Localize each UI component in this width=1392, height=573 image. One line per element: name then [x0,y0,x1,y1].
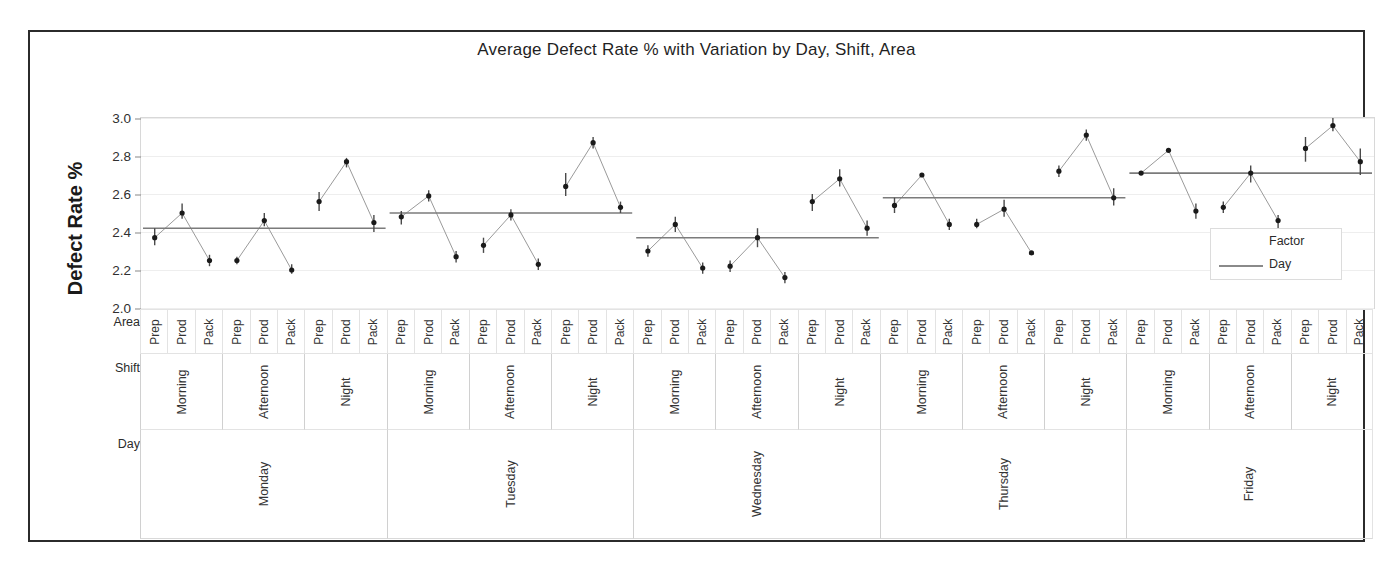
data-point [673,222,678,227]
axis-cell-day-label: Thursday [997,458,1011,510]
axis-cell-area: Prod [250,309,277,354]
y-axis-tick-label: 2.4 [112,225,131,240]
axis-cell-shift-label: Night [1325,377,1339,406]
data-point [728,264,733,269]
data-point [399,214,404,219]
axis-cell-shift: Night [1044,354,1126,430]
axis-cell-area-label: Pack [366,318,380,345]
data-point [837,176,842,181]
series-connector [155,213,210,261]
axis-cell-day: Thursday [880,430,1127,539]
axis-cell-area-label: Prep [312,319,326,344]
axis-cell-area-label: Prod [257,319,271,344]
axis-cell-area-label: Prod [421,319,435,344]
category-axis: PrepProdPackPrepProdPackPrepProdPackPrep… [140,309,1375,539]
axis-cell-area: Prep [140,309,167,354]
data-point [1056,169,1061,174]
data-point [892,203,897,208]
data-point [289,267,294,272]
axis-cell-day-label: Monday [257,462,271,506]
axis-cell-area: Pack [195,309,222,354]
series-connector [1059,135,1114,198]
axis-cell-area: Prod [414,309,441,354]
axis-level-name-day: Day [74,437,140,451]
y-axis-tick-label: 2.6 [112,187,131,202]
axis-cell-area: Prep [1291,309,1318,354]
axis-cell-area: Pack [852,309,879,354]
axis-cell-area-label: Prep [969,319,983,344]
axis-cell-day-label: Friday [1243,467,1257,502]
data-point [1002,207,1007,212]
axis-level-name-area: Area [74,315,140,329]
data-point [1111,195,1116,200]
axis-cell-area: Prod [332,309,359,354]
axis-cell-shift: Night [304,354,386,430]
data-point [234,258,239,263]
axis-cell-area-label: Prod [339,319,353,344]
data-point [1193,209,1198,214]
axis-cell-area: Pack [1263,309,1290,354]
data-point [1330,123,1335,128]
axis-cell-area-label: Pack [449,318,463,345]
data-point [700,266,705,271]
data-point [344,159,349,164]
axis-cell-day: Monday [140,430,387,539]
data-point [152,235,157,240]
axis-cell-shift-label: Afternoon [257,364,271,418]
series-connector [566,143,621,208]
axis-cell-area: Prod [578,309,605,354]
axis-cell-area: Prod [1236,309,1263,354]
data-point [1248,171,1253,176]
axis-cell-area-label: Prod [1161,319,1175,344]
data-point [1276,218,1281,223]
data-point [591,140,596,145]
y-axis-title-text: Defect Rate % [64,129,87,329]
axis-cell-shift: Afternoon [962,354,1044,430]
axis-cell-area: Prep [962,309,989,354]
data-point [1166,148,1171,153]
y-axis-tick-label: 2.2 [112,263,131,278]
axis-cell-area: Prod [496,309,523,354]
axis-cell-area: Prep [222,309,249,354]
axis-cell-area: Pack [935,309,962,354]
data-point [317,199,322,204]
axis-cell-area: Prep [1044,309,1071,354]
chart-frame: Average Defect Rate % with Variation by … [28,30,1365,542]
axis-cell-area-label: Prep [805,319,819,344]
axis-cell-area-label: Pack [1352,318,1366,345]
axis-cell-area: Prod [743,309,770,354]
axis-cell-area-label: Prep [229,319,243,344]
axis-cell-shift-label: Night [586,377,600,406]
axis-cell-area-label: Prep [147,319,161,344]
axis-cell-area: Pack [441,309,468,354]
axis-cell-area-label: Pack [860,318,874,345]
y-axis-tick-label: 2.8 [112,149,131,164]
axis-cell-area: Prep [715,309,742,354]
axis-cell-area-label: Prod [1243,319,1257,344]
axis-cell-area: Pack [1346,309,1373,354]
data-point [1303,146,1308,151]
axis-cell-shift-label: Morning [668,369,682,414]
series-connector [401,196,456,257]
axis-level-names: AreaShiftDay [64,309,140,539]
series-connector [319,162,374,223]
axis-cell-area-label: Prep [1216,319,1230,344]
data-point [262,218,267,223]
axis-cell-area-label: Prep [476,319,490,344]
axis-row-day: MondayTuesdayWednesdayThursdayFriday [140,430,1375,539]
data-point [1358,159,1363,164]
axis-cell-shift: Morning [633,354,715,430]
axis-cell-area-label: Pack [1106,318,1120,345]
axis-cell-area-label: Prod [1325,319,1339,344]
axis-cell-area-label: Prod [503,319,517,344]
axis-cell-area-label: Pack [1271,318,1285,345]
y-axis-title: Defect Rate % [60,127,90,327]
axis-cell-area-label: Prod [832,319,846,344]
axis-cell-area-label: Prod [1079,319,1093,344]
data-point [645,248,650,253]
axis-cell-area: Pack [1181,309,1208,354]
data-point [865,226,870,231]
legend-entry-day: Day [1269,257,1291,271]
axis-cell-shift: Morning [387,354,469,430]
axis-cell-area: Prep [633,309,660,354]
